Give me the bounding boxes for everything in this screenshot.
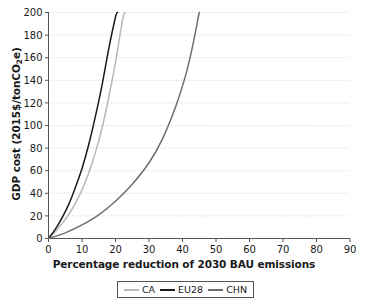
legend-label-chn: CHN bbox=[226, 285, 247, 295]
y-tick-label: 60 bbox=[30, 165, 43, 176]
y-tick-label: 100 bbox=[23, 120, 42, 131]
y-tick-label: 140 bbox=[23, 75, 42, 86]
x-tick-label: 0 bbox=[45, 244, 51, 255]
gridlines bbox=[49, 13, 351, 216]
x-tick-label: 70 bbox=[277, 244, 290, 255]
x-tick-label: 20 bbox=[109, 244, 122, 255]
y-tick-label: 40 bbox=[30, 188, 43, 199]
x-tick-label: 50 bbox=[210, 244, 223, 255]
x-tick-label: 80 bbox=[310, 244, 323, 255]
x-tick-label: 60 bbox=[243, 244, 256, 255]
legend-swatch-eu28 bbox=[160, 289, 175, 291]
legend-item-ca: CA bbox=[124, 285, 155, 295]
chart-figure: GDP cost (2015$/tonCO2e) 020406080100120… bbox=[0, 0, 368, 306]
x-axis-title: Percentage reduction of 2030 BAU emissio… bbox=[0, 258, 368, 270]
x-axis-ticks: 0102030405060708090 bbox=[45, 239, 356, 256]
y-tick-label: 180 bbox=[23, 30, 42, 41]
x-tick-label: 40 bbox=[176, 244, 189, 255]
series-line-ca bbox=[49, 13, 125, 239]
legend-item-chn: CHN bbox=[208, 285, 247, 295]
x-tick-label: 30 bbox=[143, 244, 156, 255]
y-tick-label: 160 bbox=[23, 52, 42, 63]
y-tick-label: 120 bbox=[23, 98, 42, 109]
y-axis-ticks: 020406080100120140160180200 bbox=[23, 7, 48, 244]
chart-legend: CA EU28 CHN bbox=[117, 281, 254, 298]
y-tick-label: 80 bbox=[30, 143, 43, 154]
legend-label-eu28: EU28 bbox=[178, 285, 203, 295]
y-tick-label: 200 bbox=[23, 7, 42, 18]
legend-item-eu28: EU28 bbox=[160, 285, 203, 295]
legend-swatch-ca bbox=[124, 289, 139, 291]
x-tick-label: 90 bbox=[344, 244, 357, 255]
x-tick-label: 10 bbox=[76, 244, 89, 255]
y-tick-label: 0 bbox=[36, 233, 42, 244]
legend-label-ca: CA bbox=[142, 285, 155, 295]
legend-swatch-chn bbox=[208, 289, 223, 291]
y-tick-label: 20 bbox=[30, 211, 43, 222]
